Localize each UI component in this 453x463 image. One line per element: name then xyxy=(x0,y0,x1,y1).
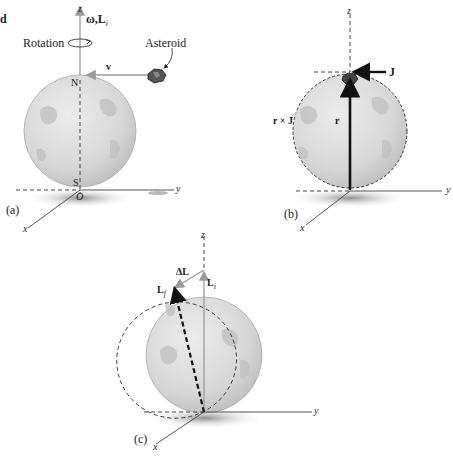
rotation-label: Rotation xyxy=(23,37,64,49)
impulse-label: J xyxy=(389,66,395,78)
delta-L-label: ΔL xyxy=(176,267,189,277)
z-axis-label-a: z xyxy=(78,4,82,14)
velocity-label: v xyxy=(106,62,111,72)
north-pole-label: N xyxy=(71,78,78,88)
origin-label: O xyxy=(76,192,83,202)
x-axis-label-a: x xyxy=(23,224,27,234)
asteroid-icon xyxy=(148,69,166,83)
x-axis-label-c: x xyxy=(153,442,157,452)
torque-impulse-label: r × J xyxy=(273,116,293,126)
panel-c xyxy=(104,236,312,444)
y-axis-label-b: y xyxy=(446,185,450,195)
panel-caption-c: (c) xyxy=(134,433,147,445)
z-axis-label-b: z xyxy=(347,6,351,16)
position-label: r xyxy=(335,116,339,126)
partial-text-top-left: d xyxy=(0,13,7,25)
y-axis-label-c: y xyxy=(314,406,318,416)
diagram-canvas xyxy=(0,0,453,463)
y-axis-label-a: y xyxy=(176,184,180,194)
x-axis-label-b: x xyxy=(300,223,304,233)
asteroid-label: Asteroid xyxy=(145,37,186,49)
ground-shadow-small-a xyxy=(148,191,168,195)
panel-caption-b: (b) xyxy=(284,208,298,220)
L-final-label: Lf xyxy=(157,285,166,298)
panel-caption-a: (a) xyxy=(6,204,19,216)
z-axis-label-c: z xyxy=(201,230,205,240)
omega-L-label: ω,Li xyxy=(86,13,108,28)
panel-b xyxy=(288,14,442,225)
asteroid-pointer xyxy=(164,48,172,68)
L-initial-label: Li xyxy=(207,278,216,291)
south-pole-label: S xyxy=(73,178,79,188)
